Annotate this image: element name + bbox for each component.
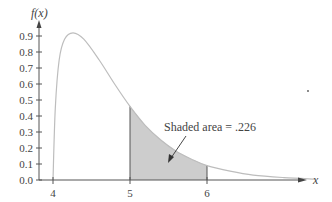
shaded-area-annotation: Shaded area = .226 [164, 120, 256, 134]
y-tick-label: 0.4 [19, 110, 33, 122]
x-tick-label: 4 [50, 187, 56, 199]
y-tick-label: 0.2 [19, 142, 33, 154]
y-axis-arrow-icon [37, 20, 42, 28]
x-axis-label: x [312, 173, 319, 187]
x-tick-label: 6 [204, 187, 210, 199]
y-tick-label: 0.7 [19, 62, 33, 74]
y-tick-label: 0.0 [19, 174, 33, 186]
y-tick-label: 0.8 [19, 46, 33, 58]
y-tick-label: 0.5 [19, 94, 33, 106]
shaded-area [130, 106, 207, 180]
y-tick-label: 0.1 [19, 158, 33, 170]
y-tick-label: 0.9 [19, 30, 33, 42]
density-chart: 0.00.10.20.30.40.50.60.70.80.9 456 f(x) … [0, 0, 332, 202]
stray-dot [307, 90, 309, 92]
y-axis-label: f(x) [31, 6, 48, 20]
y-tick-label: 0.6 [19, 78, 33, 90]
x-tick-label: 5 [127, 187, 133, 199]
y-tick-label: 0.3 [19, 126, 33, 138]
